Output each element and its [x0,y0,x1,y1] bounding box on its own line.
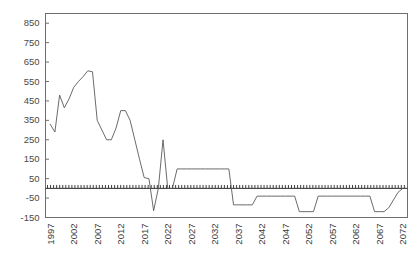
x-axis-label-group: 1997200220072012201720222027203220372042… [45,224,409,245]
y-axis-tick-label: -150 [20,212,39,223]
x-axis-tick-label: 2062 [350,224,361,245]
y-axis-tick-label: 250 [24,134,40,145]
y-axis-tick-label: 850 [24,17,40,28]
y-axis-tick-label: 150 [24,153,40,164]
x-axis-tick-label: 2022 [162,224,173,245]
zero-reference-line [46,185,408,188]
x-axis-tick-label: 1997 [45,224,56,245]
x-axis-tick-label: 2052 [303,224,314,245]
x-axis-tick-label: 2047 [280,224,291,245]
y-axis-tick-label: 750 [24,37,40,48]
y-axis-tick-label: 50 [29,173,40,184]
chart-page: 85075065055045035025015050-50-150 199720… [0,0,419,268]
x-axis-tick-label: 2007 [92,224,103,245]
x-axis-tick-label: 2037 [233,224,244,245]
x-axis-tick-label: 2017 [139,224,150,245]
x-axis-tick-label: 2032 [209,224,220,245]
line-chart: 85075065055045035025015050-50-150 199720… [0,0,419,268]
x-axis-tick-label: 2072 [397,224,408,245]
x-axis-tick-label: 2067 [374,224,385,245]
plot-frame [46,14,408,218]
x-axis-tick-label: 2057 [327,224,338,245]
x-axis-tick-label: 2012 [115,224,126,245]
y-axis-tick-label: 450 [24,95,40,106]
y-axis-tick-label: -50 [26,192,40,203]
x-axis-tick-label: 2042 [256,224,267,245]
y-axis-tick-label: 650 [24,56,40,67]
y-axis-label-group: 85075065055045035025015050-50-150 [20,17,39,222]
series-1-line [50,71,403,212]
x-axis-tick-label: 2002 [68,224,79,245]
y-axis-tick-label: 350 [24,114,40,125]
x-axis-tick-label: 2027 [186,224,197,245]
y-axis-tick-label: 550 [24,76,40,87]
